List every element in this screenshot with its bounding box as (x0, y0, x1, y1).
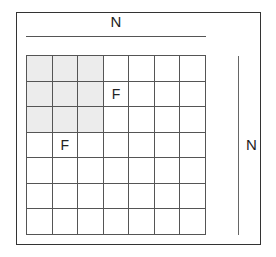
grid-cell (53, 158, 79, 184)
grid-cell (78, 184, 104, 210)
grid-cell (27, 56, 53, 82)
grid-cell (180, 209, 206, 235)
grid-cell (104, 158, 130, 184)
grid-cell: F (104, 82, 130, 108)
grid-cell (27, 158, 53, 184)
grid-cell (129, 82, 155, 108)
top-dimension-label: N (106, 13, 126, 30)
grid-cell (129, 184, 155, 210)
grid-cell: F (53, 133, 79, 159)
grid-cell (180, 158, 206, 184)
cell-marker: F (61, 137, 70, 153)
grid-cell (180, 56, 206, 82)
grid-cell (180, 107, 206, 133)
grid-cell (78, 209, 104, 235)
right-dimension-line (238, 56, 239, 235)
grid-cell (129, 133, 155, 159)
grid-cell (78, 158, 104, 184)
grid-cell (27, 82, 53, 108)
grid-cell (180, 133, 206, 159)
grid-cell (129, 209, 155, 235)
grid-cell (155, 209, 181, 235)
grid-cell (155, 184, 181, 210)
grid-cell (53, 209, 79, 235)
grid-cell (78, 82, 104, 108)
grid-cell (27, 184, 53, 210)
grid-cell (104, 107, 130, 133)
grid-cell (129, 158, 155, 184)
grid-cell (129, 107, 155, 133)
grid-cell (104, 184, 130, 210)
grid-cell (78, 133, 104, 159)
grid-cell (180, 184, 206, 210)
grid-cell (155, 56, 181, 82)
grid-cell (53, 82, 79, 108)
grid-cell (27, 107, 53, 133)
grid-cell (78, 56, 104, 82)
grid-cell (129, 56, 155, 82)
grid-cell (104, 133, 130, 159)
grid-cell (155, 133, 181, 159)
grid-cell (155, 107, 181, 133)
grid-cell (53, 184, 79, 210)
grid-cell (27, 133, 53, 159)
grid-cell (104, 209, 130, 235)
grid-cell (155, 82, 181, 108)
top-dimension-line (26, 36, 206, 37)
grid-cell (78, 107, 104, 133)
cell-marker: F (112, 86, 121, 102)
grid-cell (180, 82, 206, 108)
grid-cell (53, 107, 79, 133)
right-dimension-label: N (246, 136, 257, 153)
grid-cell (53, 56, 79, 82)
grid: FF (26, 55, 206, 235)
grid-cell (27, 209, 53, 235)
grid-cell (104, 56, 130, 82)
grid-cell (155, 158, 181, 184)
